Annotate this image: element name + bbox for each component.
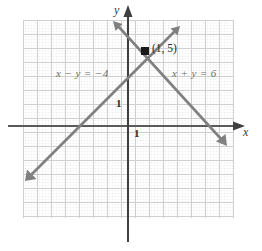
intersection-point-label: (1, 5) bbox=[152, 43, 177, 55]
y-axis-label: y bbox=[114, 4, 119, 16]
graph-figure: x − y = −4 x + y = 6 y x 1 1 (1, 5) bbox=[0, 0, 262, 251]
line-label-x-plus-y: x + y = 6 bbox=[172, 68, 217, 79]
line-label-x-minus-y: x − y = −4 bbox=[56, 68, 109, 79]
x-axis-label: x bbox=[243, 126, 248, 138]
coordinate-plane bbox=[0, 0, 262, 251]
x-axis-tick-label-1: 1 bbox=[134, 128, 140, 139]
intersection-point-marker bbox=[141, 47, 149, 55]
y-axis-tick-label-1: 1 bbox=[116, 98, 122, 109]
